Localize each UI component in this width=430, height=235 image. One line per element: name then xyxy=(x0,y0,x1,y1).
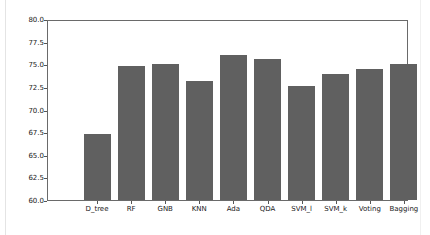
bar-voting xyxy=(356,69,383,200)
y-tick-label: 67.5 xyxy=(28,129,44,137)
x-tick-label: D_tree xyxy=(86,205,109,213)
y-tick-label: 72.5 xyxy=(28,84,44,92)
bar-qda xyxy=(254,59,281,200)
bar-bagging xyxy=(390,64,417,200)
x-tick-mark xyxy=(370,201,371,204)
x-tick-mark xyxy=(302,201,303,204)
plot-area xyxy=(47,20,408,201)
y-tick-mark xyxy=(44,201,47,202)
screenshot-frame-left xyxy=(5,0,6,235)
bar-ada xyxy=(220,55,247,200)
bar-svm-k xyxy=(322,74,349,200)
x-tick-mark xyxy=(268,201,269,204)
y-tick-label: 77.5 xyxy=(28,39,44,47)
bar-knn xyxy=(186,81,213,200)
x-tick-mark xyxy=(199,201,200,204)
y-tick-label: 60.0 xyxy=(28,197,44,205)
y-tick-label: 65.0 xyxy=(28,152,44,160)
x-tick-label: Ada xyxy=(227,205,240,213)
x-tick-label: Voting xyxy=(359,205,381,213)
x-tick-mark xyxy=(233,201,234,204)
x-tick-label: GNB xyxy=(157,205,172,213)
bar-rf xyxy=(118,66,145,200)
x-tick-label: QDA xyxy=(260,205,276,213)
x-tick-mark xyxy=(336,201,337,204)
x-tick-mark xyxy=(97,201,98,204)
bar-d-tree xyxy=(84,134,111,200)
y-tick-label: 80.0 xyxy=(28,16,44,24)
x-tick-label: Bagging xyxy=(389,205,418,213)
bar-gnb xyxy=(152,64,179,200)
x-tick-label: SVM_l xyxy=(291,205,312,213)
bar-svm-l xyxy=(288,86,315,200)
x-tick-label: RF xyxy=(127,205,136,213)
x-tick-mark xyxy=(404,201,405,204)
x-tick-label: KNN xyxy=(192,205,207,213)
x-tick-label: SVM_k xyxy=(324,205,347,213)
screenshot-frame-right xyxy=(420,0,421,235)
y-tick-label: 62.5 xyxy=(28,174,44,182)
y-tick-label: 75.0 xyxy=(28,61,44,69)
y-tick-label: 70.0 xyxy=(28,107,44,115)
x-tick-mark xyxy=(131,201,132,204)
x-tick-mark xyxy=(165,201,166,204)
